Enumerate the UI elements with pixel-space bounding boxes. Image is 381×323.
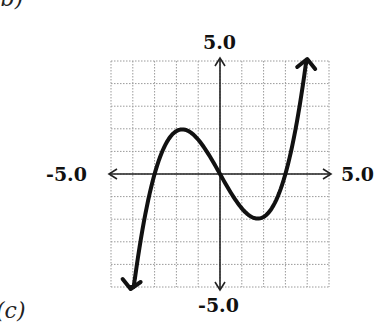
curve-end-arrow-down-icon	[123, 279, 141, 289]
